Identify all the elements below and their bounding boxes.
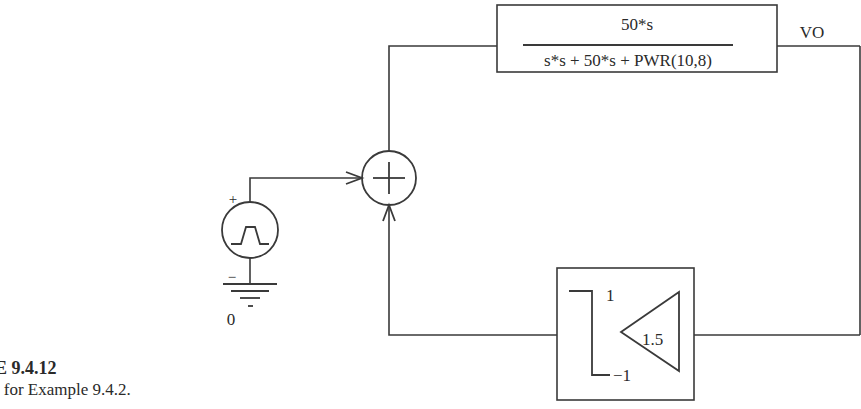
gain-value: 1.5 [642,330,663,349]
limit-low-label: −1 [613,366,631,385]
limiter-icon [569,291,610,375]
figure-title: RE 9.4.12 [0,358,57,379]
figure-caption: e for Example 9.4.2. [0,380,131,400]
output-label: VO [800,23,825,42]
limit-high-label: 1 [606,286,615,305]
feedback-wire [389,205,557,335]
pulse-icon [231,227,269,244]
source-to-summer-wire [250,178,362,202]
transfer-numerator: 50*s [621,15,653,34]
pulse-source [222,202,278,258]
summer-to-block-wire [389,46,497,151]
ground-node-label: 0 [227,310,236,329]
block-diagram: 50*s s*s + 50*s + PWR(10,8) VO + − 0 1 −… [0,0,861,409]
source-plus-label: + [229,191,237,207]
source-minus-label: − [228,269,236,285]
transfer-denominator: s*s + 50*s + PWR(10,8) [544,51,712,70]
